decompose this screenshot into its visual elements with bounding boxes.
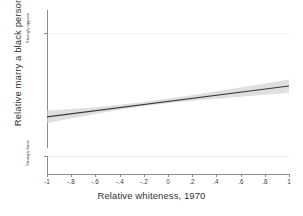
x-axis-tick-5 [168, 174, 169, 177]
x-axis-tick-1 [71, 174, 72, 177]
fitted-line [47, 86, 289, 117]
x-axis-tick-label-2: -.6 [84, 178, 106, 185]
plot-area: -1 -.8 -.6 -.4 -.2 0 .2 .4 .6 .8 1 [47, 10, 289, 174]
x-axis-tick-2 [95, 174, 96, 177]
x-axis-tick-label-0: -1 [36, 178, 58, 185]
x-axis-tick-label-1: -.8 [60, 178, 82, 185]
x-axis-title: Relative whiteness, 1970 [0, 190, 303, 201]
x-axis-tick-label-3: -.4 [109, 178, 131, 185]
chart-data-layer [47, 10, 289, 174]
x-axis-tick-label-4: -.2 [133, 178, 155, 185]
x-axis-tick-0 [47, 174, 48, 177]
x-axis-tick-label-5: 0 [157, 178, 179, 185]
x-axis-tick-8 [241, 174, 242, 177]
x-axis-tick-10 [289, 174, 290, 177]
x-axis-tick-9 [265, 174, 266, 177]
x-axis-tick-label-10: 1 [278, 178, 300, 185]
x-axis-tick-label-9: .8 [254, 178, 276, 185]
x-axis-tick-4 [144, 174, 145, 177]
x-axis-tick-label-7: .4 [205, 178, 227, 185]
x-axis-tick-6 [192, 174, 193, 177]
x-axis-tick-label-6: .2 [181, 178, 203, 185]
x-axis-tick-label-8: .6 [230, 178, 252, 185]
x-axis-tick-3 [120, 174, 121, 177]
y-axis-title: Relative marry a black person [11, 0, 25, 142]
x-axis-tick-7 [216, 174, 217, 177]
chart-figure: Relative marry a black person Strongly o… [0, 0, 303, 216]
y-axis-category-label-bottom: Strongly favor [25, 127, 31, 179]
y-axis-category-label-top: Strongly oppose [25, 0, 31, 57]
